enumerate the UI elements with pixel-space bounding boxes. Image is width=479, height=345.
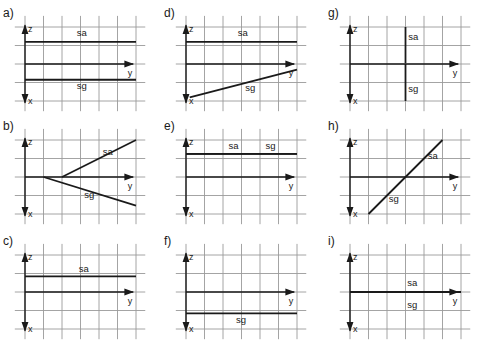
z-axis-label: z (189, 137, 194, 147)
trace-label-sa: sa (229, 140, 240, 151)
x-axis-label: x (353, 96, 358, 106)
y-axis-label: y (128, 181, 133, 191)
panel-c: zxyc)sa (3, 234, 145, 339)
panel-h: zxyh)sasg (328, 119, 470, 224)
trace-label-sg: sg (266, 140, 276, 151)
z-axis-label: z (353, 24, 358, 34)
y-axis-label: y (453, 296, 458, 306)
x-axis-label: x (28, 324, 33, 334)
panel-a: zxya)sasg (3, 6, 145, 111)
trace-label-sa: sa (428, 150, 439, 161)
trace-label-sg: sg (84, 189, 94, 200)
trace-label-sa: sa (408, 31, 419, 42)
x-axis-label: x (189, 324, 194, 334)
trace-label-sa: sa (407, 277, 418, 288)
z-axis-label: z (28, 252, 33, 262)
panel-i: zxyi)sasg (328, 234, 470, 339)
z-axis-label: z (353, 137, 358, 147)
y-axis-label: y (128, 68, 133, 78)
z-axis-label: z (28, 24, 33, 34)
z-axis-label: z (353, 252, 358, 262)
x-axis-label: x (353, 324, 358, 334)
panel-label: f) (164, 234, 171, 248)
y-axis-label: y (289, 296, 294, 306)
trace-label-sa: sa (79, 263, 90, 274)
panel-label: d) (164, 6, 175, 20)
panel-g: zxyg)sasg (328, 6, 470, 111)
trace-label-sa: sa (238, 27, 249, 38)
trace-label-sa: sa (77, 27, 88, 38)
z-axis-label: z (189, 252, 194, 262)
trace-label-sg: sg (77, 80, 87, 91)
panel-label: b) (3, 119, 14, 133)
x-axis-label: x (28, 96, 33, 106)
trace-label-sg: sg (408, 83, 418, 94)
y-axis-label: y (453, 68, 458, 78)
trace-diagram-figure: zxya)sasgzxyb)sasgzxyc)sazxyd)sasgzxye)s… (0, 0, 479, 345)
z-axis-label: z (189, 24, 194, 34)
trace-label-sg: sg (245, 82, 255, 93)
panel-e: zxye)sasg (164, 119, 306, 224)
x-axis-label: x (189, 209, 194, 219)
y-axis-label: y (289, 181, 294, 191)
panel-d: zxyd)sasg (164, 6, 306, 111)
panel-label: h) (328, 119, 339, 133)
trace-label-sg: sg (236, 314, 246, 325)
trace-label-sg: sg (389, 193, 399, 204)
y-axis-label: y (289, 68, 294, 78)
z-axis-label: z (28, 137, 33, 147)
panel-label: g) (328, 6, 339, 20)
panel-label: i) (328, 234, 335, 248)
trace-label-sg: sg (407, 299, 417, 310)
y-axis-label: y (453, 181, 458, 191)
trace-label-sa: sa (103, 146, 114, 157)
panel-b: zxyb)sasg (3, 119, 145, 224)
y-axis-label: y (128, 296, 133, 306)
panel-label: e) (164, 119, 175, 133)
trace-sg (190, 70, 297, 98)
panel-label: c) (3, 234, 13, 248)
x-axis-label: x (28, 209, 33, 219)
panel-f: zxyf)sg (164, 234, 306, 339)
panel-label: a) (3, 6, 14, 20)
x-axis-label: x (353, 209, 358, 219)
